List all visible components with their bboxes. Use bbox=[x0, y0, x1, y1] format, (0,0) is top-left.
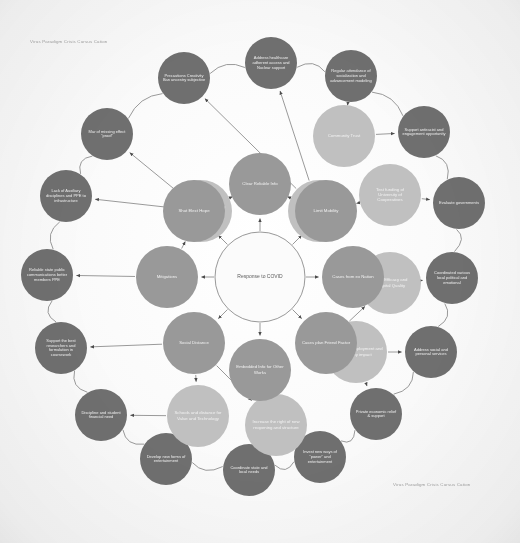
node-out-16[interactable]: Mar of missing effect"proof" bbox=[81, 108, 133, 160]
node-circle-in-4[interactable] bbox=[295, 312, 357, 374]
edge-center-to-in-6 bbox=[218, 310, 227, 319]
node-circle-out-4[interactable] bbox=[398, 106, 450, 158]
perimeter-arc-out-11-to-out-12 bbox=[123, 430, 144, 445]
node-in-6[interactable]: Social Distance bbox=[163, 312, 225, 374]
node-out-2[interactable]: Address healthcareadherent access andNuc… bbox=[245, 37, 297, 89]
node-circle-in-3[interactable] bbox=[322, 246, 384, 308]
edge-in-4-to-mid-5 bbox=[349, 307, 364, 322]
edge-mid-1-to-out-15 bbox=[95, 199, 169, 207]
perimeter-arc-out-7-to-out-8 bbox=[394, 372, 414, 394]
node-circle-out-8[interactable] bbox=[350, 388, 402, 440]
node-circle-in-6[interactable] bbox=[163, 312, 225, 374]
perimeter-arc-out-15-to-out-16 bbox=[80, 156, 93, 174]
node-in-3[interactable]: Cases from ex Nation bbox=[322, 246, 384, 308]
node-mid-4[interactable]: Test funding ofUniversity ofCooperatives bbox=[359, 164, 421, 226]
perimeter-arc-out-9-to-out-10 bbox=[275, 462, 294, 470]
node-out-4[interactable]: Support antiracist andengagement opportu… bbox=[398, 106, 450, 158]
node-out-8[interactable]: Private economic relief& support bbox=[350, 388, 402, 440]
mindmap-svg: Precautions CreativityBan ancestry subje… bbox=[0, 0, 520, 543]
node-mid-8[interactable]: Schools and distance forValue and Techno… bbox=[167, 385, 229, 447]
node-circle-out-14[interactable] bbox=[21, 249, 73, 301]
perimeter-arc-out-1-to-out-2 bbox=[210, 64, 245, 73]
node-out-15[interactable]: Lack of Auxiliarydisciplines and PPE toi… bbox=[40, 170, 92, 222]
node-in-1[interactable]: Clear Reliable Info bbox=[229, 153, 291, 215]
node-out-7[interactable]: Address social andpersonal services bbox=[405, 326, 457, 378]
node-out-6[interactable]: Coordinated variouslocal political andem… bbox=[426, 252, 478, 304]
perimeter-arc-out-14-to-out-15 bbox=[50, 222, 60, 249]
node-circle-out-2[interactable] bbox=[245, 37, 297, 89]
node-circle-mid-4[interactable] bbox=[359, 164, 421, 226]
perimeter-arc-out-8-to-out-9 bbox=[341, 430, 355, 442]
edge-in-7-to-out-14 bbox=[77, 275, 136, 276]
node-in-4[interactable]: Cases plan Friend Factor bbox=[295, 312, 357, 374]
node-in-7[interactable]: Mitigations bbox=[136, 246, 198, 308]
node-mid-3[interactable]: Community Trust bbox=[313, 105, 375, 167]
perimeter-arc-out-12-to-out-13 bbox=[74, 371, 88, 393]
node-out-3[interactable]: Regular attendance ofsocialization andad… bbox=[325, 50, 377, 102]
node-circle-out-15[interactable] bbox=[40, 170, 92, 222]
node-circle-mid-7[interactable] bbox=[245, 394, 307, 456]
node-circle-out-7[interactable] bbox=[405, 326, 457, 378]
node-circle-in-2[interactable] bbox=[295, 180, 357, 242]
node-circle-mid-3[interactable] bbox=[313, 105, 375, 167]
perimeter-arc-out-13-to-out-14 bbox=[48, 301, 56, 322]
perimeter-arc-out-3-to-out-4 bbox=[372, 92, 403, 116]
edge-mid-6-to-out-8 bbox=[366, 382, 367, 385]
node-out-14[interactable]: Reliable state publiccommunications bett… bbox=[21, 249, 73, 301]
perimeter-arc-out-10-to-out-11 bbox=[192, 462, 222, 470]
node-circle-in-7[interactable] bbox=[136, 246, 198, 308]
caption-bottom-right: Virus Paradigm Crisis Cursus Cation bbox=[393, 482, 470, 487]
node-circle-out-6[interactable] bbox=[426, 252, 478, 304]
node-center[interactable]: Response to COVID bbox=[215, 232, 305, 322]
caption-top-left: Virus Paradigm Crisis Cursus Cation bbox=[30, 39, 107, 44]
node-in-8[interactable]: Shut Elect Hope bbox=[163, 180, 225, 242]
node-out-5[interactable]: Evaluate governments bbox=[433, 177, 485, 229]
node-circle-out-5[interactable] bbox=[433, 177, 485, 229]
edge-in-7-to-mid-1 bbox=[182, 242, 186, 249]
node-circle-out-3[interactable] bbox=[325, 50, 377, 102]
edge-center-to-in-4 bbox=[293, 310, 302, 319]
node-circle-out-12[interactable] bbox=[75, 389, 127, 441]
perimeter-arc-out-2-to-out-3 bbox=[297, 63, 325, 71]
perimeter-arc-out-16-to-out-1 bbox=[128, 94, 162, 119]
edge-center-to-in-2 bbox=[293, 235, 302, 244]
node-group: Precautions CreativityBan ancestry subje… bbox=[21, 37, 485, 496]
node-circle-in-5[interactable] bbox=[229, 339, 291, 401]
node-mid-7[interactable]: Increase the right of newreopening and s… bbox=[245, 394, 307, 456]
node-circle-mid-8[interactable] bbox=[167, 385, 229, 447]
perimeter-arc-out-4-to-out-5 bbox=[436, 156, 449, 179]
node-out-13[interactable]: Support the bestresearchers andformulati… bbox=[35, 322, 87, 374]
node-in-2[interactable]: Limit Mobility bbox=[295, 180, 357, 242]
perimeter-arc-out-5-to-out-6 bbox=[454, 229, 461, 251]
node-circle-out-1[interactable] bbox=[158, 52, 210, 104]
node-circle-in-1[interactable] bbox=[229, 153, 291, 215]
node-out-12[interactable]: Discipline and studentfinancial need bbox=[75, 389, 127, 441]
node-circle-in-8[interactable] bbox=[163, 180, 225, 242]
edge-in-6-to-out-13 bbox=[90, 344, 162, 347]
node-circle-center[interactable] bbox=[215, 232, 305, 322]
node-circle-out-16[interactable] bbox=[81, 108, 133, 160]
perimeter-arc-out-6-to-out-7 bbox=[438, 303, 448, 326]
node-in-5[interactable]: Embedded Info for OtherWorks bbox=[229, 339, 291, 401]
edge-center-to-in-8 bbox=[218, 235, 227, 244]
edge-mid-3-to-out-4 bbox=[376, 133, 395, 134]
edge-mid-1-to-out-16 bbox=[130, 153, 176, 191]
edge-mid-4-to-out-5 bbox=[422, 199, 430, 200]
diagram-canvas: Precautions CreativityBan ancestry subje… bbox=[0, 0, 520, 543]
node-out-1[interactable]: Precautions CreativityBan ancestry subje… bbox=[158, 52, 210, 104]
node-circle-out-13[interactable] bbox=[35, 322, 87, 374]
